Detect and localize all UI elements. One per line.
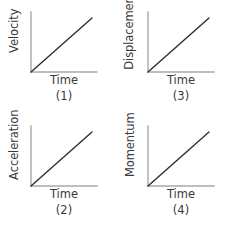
four-panel-graph-figure: Velocity Time (1) Displacement Time (3) (0, 0, 225, 230)
graph-panel-3: Displacement Time (3) (112, 0, 224, 115)
panel-index-2: (2) (31, 204, 97, 218)
x-axis-label-3: Time (148, 74, 214, 88)
panel-index-3: (3) (148, 90, 214, 104)
plot-area-2 (0, 114, 112, 194)
x-axis-label-1: Time (31, 74, 97, 88)
data-line-3 (148, 18, 209, 72)
data-line-1 (31, 18, 92, 72)
x-axis-label-2: Time (31, 188, 97, 202)
plot-area-4 (112, 114, 224, 194)
panel-index-4: (4) (148, 204, 214, 218)
graph-panel-4: Momentum Time (4) (112, 114, 224, 229)
plot-area-3 (112, 0, 224, 80)
x-axis-label-4: Time (148, 188, 214, 202)
data-line-2 (31, 132, 92, 186)
data-line-4 (148, 132, 209, 186)
graph-panel-1: Velocity Time (1) (0, 0, 112, 115)
plot-area-1 (0, 0, 112, 80)
panel-index-1: (1) (31, 90, 97, 104)
graph-panel-2: Acceleration Time (2) (0, 114, 112, 229)
